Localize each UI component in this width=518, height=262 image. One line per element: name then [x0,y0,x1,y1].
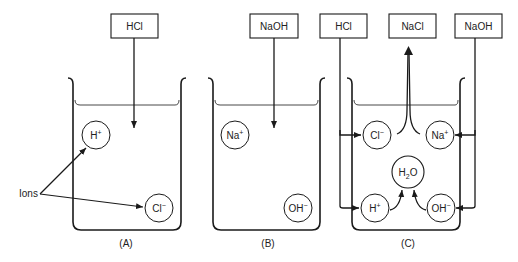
naoh-to-na-arrow [455,38,475,135]
hcl-to-h-arrow [340,130,359,208]
ions-label: Ions [19,188,38,199]
caption-a: (A) [119,238,132,249]
water-surface-a [75,100,179,105]
hcl-label-a: HCl [126,21,143,32]
naoh-to-oh-arrow [456,130,475,208]
caption-c: (C) [401,238,415,249]
water-molecule-c [392,156,424,188]
nacl-arrowhead [404,46,413,55]
water-surface-b [215,100,318,105]
cl-to-nacl-line [397,52,408,134]
panel-c: HCl NaCl NaOH Cl− Na+ H+ OH− H2O (C) [320,14,502,249]
ions-arrow-cl [40,194,143,207]
panel-b: NaOH Na+ OH− (B) [208,14,325,249]
svg-text:HCl: HCl [335,21,352,32]
na-to-nacl-line [409,52,420,134]
naoh-label-b: NaOH [260,21,288,32]
oh-to-water-arrow [414,190,426,210]
svg-text:NaOH: NaOH [465,21,493,32]
neutralization-diagram: HCl H+ Cl− Ions (A) NaOH Na+ OH− (B) HCl… [0,0,518,262]
hcl-to-cl-arrow [340,38,361,135]
ions-arrow-h [40,148,86,194]
svg-text:NaCl: NaCl [401,21,423,32]
panel-a: HCl H+ Cl− Ions (A) [19,14,186,249]
water-surface-c [354,100,458,105]
h-to-water-arrow [390,190,402,210]
caption-b: (B) [261,238,274,249]
